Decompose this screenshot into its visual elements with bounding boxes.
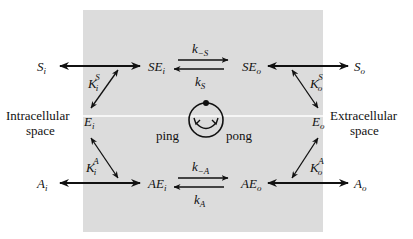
constant-k-o-s: KoS: [309, 72, 323, 93]
label-pong: pong: [226, 128, 253, 143]
species-a-i: Ai: [36, 176, 48, 193]
species-s-i: Si: [37, 59, 47, 76]
species-s-o: So: [354, 59, 366, 76]
label-intracellular-space: space: [26, 123, 55, 138]
ping-pong-transport-diagram: Si SEi SEo So k−S kS KiS KoS Intracellul…: [0, 0, 413, 239]
label-ping: ping: [156, 128, 180, 143]
label-intracellular: Intracellular: [6, 108, 70, 123]
label-extracellular: Extracellular: [330, 108, 398, 123]
species-a-o: Ao: [353, 176, 367, 193]
constant-k-o-a: KoA: [309, 156, 324, 177]
label-extracellular-space: space: [350, 123, 379, 138]
